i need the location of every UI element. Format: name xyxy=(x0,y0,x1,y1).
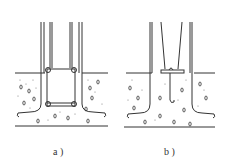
diagram xyxy=(0,0,225,166)
panel-b-drawing xyxy=(124,22,215,127)
panel-a-drawing xyxy=(15,22,108,126)
panel-b-label: b ) xyxy=(164,146,175,157)
panel-a-label: a ) xyxy=(53,146,63,157)
